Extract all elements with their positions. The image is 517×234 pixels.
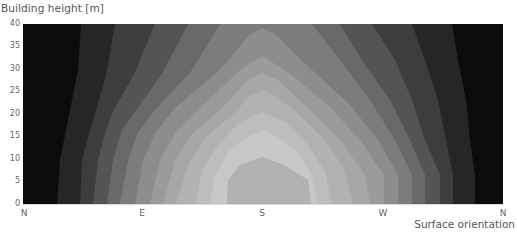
x-tick-n-left: N <box>21 208 28 218</box>
x-tick-e: E <box>139 208 145 218</box>
x-tick-n-right: N <box>500 208 507 218</box>
x-tick-s: S <box>259 208 265 218</box>
contour-plot-area <box>0 0 517 234</box>
x-axis-title: Surface orientation <box>414 218 515 230</box>
x-tick-w: W <box>379 208 388 218</box>
